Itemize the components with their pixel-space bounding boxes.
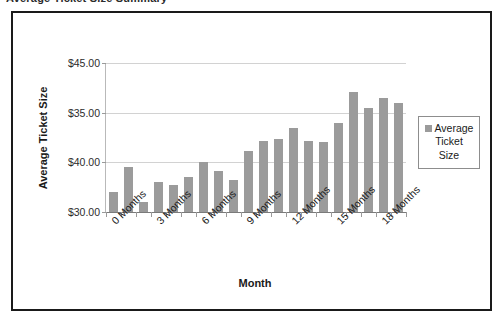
y-axis-title: Average Ticket Size: [35, 63, 51, 212]
x-axis-tick: [226, 212, 227, 217]
bar-slot: [331, 63, 346, 212]
chart-canvas: Average Ticket Size $30.00$35.00$40.00$4…: [13, 13, 490, 309]
x-axis-tick: [241, 212, 242, 217]
bar: [154, 182, 163, 212]
x-axis-tick: [316, 212, 317, 217]
x-axis-tick: [136, 212, 137, 217]
bar-slot: [376, 63, 391, 212]
x-axis-tick: [151, 212, 152, 217]
bar-slot: [301, 63, 316, 212]
clipped-header-text: Average Ticket Size Summary: [6, 0, 436, 4]
bar: [379, 98, 388, 212]
bar-slot: [196, 63, 211, 212]
bar: [244, 151, 253, 212]
x-axis-tick: [376, 212, 377, 217]
bar-slot: [106, 63, 121, 212]
y-axis-tick-label: $40.00: [68, 156, 100, 168]
chart-frame: Average Ticket Size $30.00$35.00$40.00$4…: [11, 11, 492, 311]
x-axis-tick: [271, 212, 272, 217]
bar-slot: [241, 63, 256, 212]
y-axis-tick-label: $30.00: [68, 206, 100, 218]
bar-slot: [151, 63, 166, 212]
y-axis-title-label: Average Ticket Size: [37, 86, 49, 189]
bar: [199, 162, 208, 212]
chart-legend: Average Ticket Size: [418, 116, 480, 169]
legend-label-line-1: Average: [435, 122, 474, 134]
bar-slot: [121, 63, 136, 212]
x-axis-title: Month: [105, 277, 405, 289]
bar-slot: [391, 63, 406, 212]
legend-label-line-3: Size: [424, 149, 474, 162]
bar-slot: [256, 63, 271, 212]
x-axis-tick: [406, 212, 407, 217]
x-axis-category-labels: 0 Months3 Months6 Months9 Months12 Month…: [105, 218, 405, 276]
y-axis-tick-label: $45.00: [68, 57, 100, 69]
legend-label-line-2: Ticket: [424, 135, 474, 148]
x-axis-tick: [361, 212, 362, 217]
x-axis-tick: [196, 212, 197, 217]
bar-slot: [346, 63, 361, 212]
bar-slot: [286, 63, 301, 212]
bar-slot: [166, 63, 181, 212]
x-axis-tick: [181, 212, 182, 217]
bar-slot: [211, 63, 226, 212]
x-axis-tick: [286, 212, 287, 217]
x-axis-tick: [331, 212, 332, 217]
legend-entry: Average Ticket Size: [424, 122, 474, 162]
bar: [334, 123, 343, 212]
bar: [289, 128, 298, 212]
legend-square-swatch-icon: [425, 125, 432, 132]
x-axis-tick: [106, 212, 107, 217]
y-axis-tick-label: $35.00: [68, 107, 100, 119]
